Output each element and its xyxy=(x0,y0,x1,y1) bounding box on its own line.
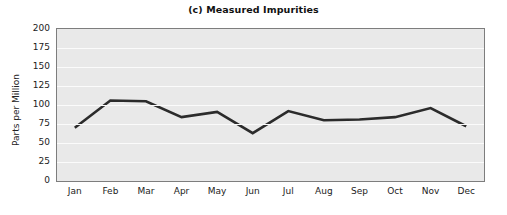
x-axis-tick-labels: JanFebMarAprMayJunJulAugSepOctNovDec xyxy=(56,186,485,202)
y-tick-label: 0 xyxy=(24,176,50,185)
y-tick-label: 100 xyxy=(24,100,50,109)
x-tick-label: Sep xyxy=(339,186,379,197)
x-tick-label: Mar xyxy=(126,186,166,197)
y-tick-label: 125 xyxy=(24,81,50,90)
y-axis-title: Parts per Million xyxy=(11,50,21,170)
y-axis-tick-labels: 0255075100125150175200 xyxy=(22,0,50,215)
x-tick-label: Apr xyxy=(162,186,202,197)
x-tick-label: Oct xyxy=(375,186,415,197)
gridline xyxy=(57,67,484,68)
gridline xyxy=(57,86,484,87)
x-tick-label: Jan xyxy=(55,186,95,197)
y-tick-label: 50 xyxy=(24,138,50,147)
y-tick-label: 150 xyxy=(24,62,50,71)
gridline xyxy=(57,143,484,144)
x-tick-label: Jun xyxy=(233,186,273,197)
y-tick-label: 25 xyxy=(24,157,50,166)
chart-title: (c) Measured Impurities xyxy=(0,4,507,15)
chart-figure: (c) Measured Impurities Parts per Millio… xyxy=(0,0,507,215)
x-tick-label: Aug xyxy=(304,186,344,197)
x-tick-label: Nov xyxy=(411,186,451,197)
gridline xyxy=(57,162,484,163)
x-tick-label: Feb xyxy=(90,186,130,197)
x-tick-label: Dec xyxy=(446,186,486,197)
y-tick-label: 175 xyxy=(24,43,50,52)
plot-area xyxy=(56,28,485,182)
gridline xyxy=(57,124,484,125)
x-tick-label: Jul xyxy=(268,186,308,197)
gridline xyxy=(57,48,484,49)
y-tick-label: 200 xyxy=(24,24,50,33)
y-tick-label: 75 xyxy=(24,119,50,128)
gridline xyxy=(57,105,484,106)
x-tick-label: May xyxy=(197,186,237,197)
